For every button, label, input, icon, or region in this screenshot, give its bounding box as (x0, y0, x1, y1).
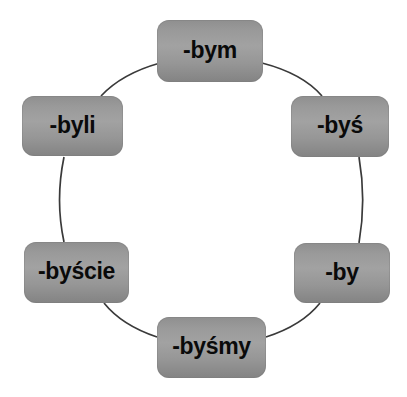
cycle-node-label: -by (325, 261, 359, 286)
connector-bys-to-by (359, 157, 363, 243)
cycle-node-bys[interactable]: -byś (291, 96, 389, 157)
connector-bym-to-bys (262, 63, 322, 96)
cycle-node-label: -byście (38, 260, 115, 285)
cycle-node-by[interactable]: -by (294, 243, 390, 303)
cycle-node-label: -bym (183, 39, 237, 64)
cycle-node-byli[interactable]: -byli (22, 96, 123, 156)
connector-byli-to-bym (101, 63, 160, 96)
cycle-node-label: -byś (317, 114, 363, 139)
connector-by-to-bysmy (266, 303, 320, 337)
connector-byscie-to-byli (60, 157, 65, 242)
connector-bysmy-to-byscie (104, 303, 157, 337)
cycle-node-label: -byli (50, 114, 96, 139)
cycle-node-byscie[interactable]: -byście (24, 242, 129, 303)
cycle-node-bym[interactable]: -bym (157, 20, 263, 82)
cycle-node-label: -byśmy (172, 335, 251, 360)
cycle-node-bysmy[interactable]: -byśmy (157, 317, 266, 378)
cycle-diagram: -bym -byś -by -byśmy -byście -byli (0, 0, 407, 397)
